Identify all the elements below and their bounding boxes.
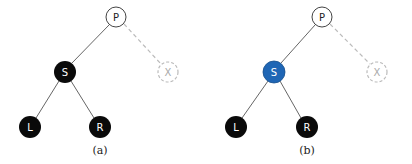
node-x-label: X bbox=[374, 67, 381, 78]
node-p: P bbox=[312, 7, 332, 27]
edge-p-x-dashed bbox=[124, 24, 161, 64]
panel-a: P S X L R (a) bbox=[19, 7, 178, 157]
panel-b: P S X L R (b) bbox=[225, 7, 387, 157]
node-l-label: L bbox=[27, 122, 33, 133]
edge-s-r bbox=[71, 81, 94, 118]
node-r-label: R bbox=[97, 122, 104, 133]
edge-p-s bbox=[72, 25, 109, 63]
node-x: X bbox=[158, 62, 178, 82]
caption-b: (b) bbox=[299, 144, 315, 157]
node-s-label: S bbox=[62, 67, 68, 78]
node-s-label: S bbox=[271, 67, 277, 78]
edge-p-s bbox=[281, 25, 315, 63]
edge-s-r bbox=[280, 81, 301, 118]
node-r: R bbox=[296, 116, 318, 138]
node-p: P bbox=[106, 7, 126, 27]
node-s: S bbox=[54, 61, 76, 83]
edge-s-l bbox=[36, 81, 59, 118]
edge-p-x-dashed bbox=[330, 24, 370, 64]
node-r-label: R bbox=[304, 122, 311, 133]
tree-diagram: P S X L R (a) P S bbox=[0, 0, 412, 164]
edge-s-l bbox=[242, 81, 268, 118]
node-p-label: P bbox=[113, 12, 119, 23]
node-x: X bbox=[367, 62, 387, 82]
caption-a: (a) bbox=[92, 144, 107, 157]
node-r: R bbox=[89, 116, 111, 138]
node-p-label: P bbox=[319, 12, 325, 23]
node-l: L bbox=[225, 116, 247, 138]
node-l: L bbox=[19, 116, 41, 138]
node-s-highlighted: S bbox=[263, 61, 285, 83]
node-x-label: X bbox=[165, 67, 172, 78]
node-l-label: L bbox=[233, 122, 239, 133]
